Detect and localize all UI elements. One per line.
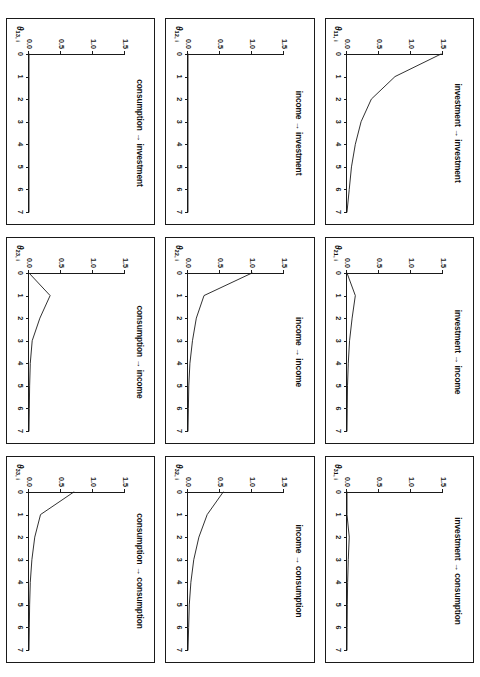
plot-area: income → consumptionθ32, i012345670.00.5… (170, 462, 310, 658)
curve-path (347, 54, 441, 212)
plot-area: investment → investmentθ11, i012345670.0… (329, 24, 469, 220)
curve-path (347, 492, 349, 650)
impulse-response-curve (11, 243, 151, 439)
curve-path (29, 492, 74, 650)
impulse-response-curve (329, 24, 469, 220)
plot-area: income → incomeθ22, i012345670.00.51.01.… (170, 243, 310, 439)
impulse-response-curve (170, 462, 310, 658)
impulse-response-curve (11, 462, 151, 658)
impulse-response-curve (170, 243, 310, 439)
plot-area: investment → incomeθ21, i012345670.00.51… (329, 243, 469, 439)
plot-panel-p11: investment → investmentθ11, i012345670.0… (325, 18, 474, 225)
plot-panel-p22: income → incomeθ22, i012345670.00.51.01.… (165, 237, 314, 444)
plot-panel-p21: investment → incomeθ21, i012345670.00.51… (325, 237, 474, 444)
plot-area: consumption → incomeθ23, i012345670.00.5… (11, 243, 151, 439)
impulse-response-curve (11, 24, 151, 220)
plot-panel-p33: consumption → consumptionθ33, i012345670… (6, 456, 155, 663)
plot-panel-p13: consumption → investmentθ13, i012345670.… (6, 18, 155, 225)
plot-panel-p23: consumption → incomeθ23, i012345670.00.5… (6, 237, 155, 444)
plot-area: income → investmentθ12, i012345670.00.51… (170, 24, 310, 220)
plot-panel-p31: investment → consumptionθ31, i012345670.… (325, 456, 474, 663)
impulse-response-curve (329, 462, 469, 658)
curve-path (188, 273, 252, 431)
curve-path (29, 273, 50, 431)
impulse-response-curve (170, 24, 310, 220)
plot-panel-p32: income → consumptionθ32, i012345670.00.5… (165, 456, 314, 663)
figure-page: consumption → investmentθ13, i012345670.… (0, 0, 480, 677)
curve-path (347, 273, 355, 431)
plot-panel-p12: income → investmentθ12, i012345670.00.51… (165, 18, 314, 225)
plot-area: consumption → investmentθ13, i012345670.… (11, 24, 151, 220)
panel-grid: consumption → investmentθ13, i012345670.… (0, 0, 480, 677)
plot-area: investment → consumptionθ31, i012345670.… (329, 462, 469, 658)
curve-path (188, 492, 223, 650)
plot-area: consumption → consumptionθ33, i012345670… (11, 462, 151, 658)
impulse-response-curve (329, 243, 469, 439)
